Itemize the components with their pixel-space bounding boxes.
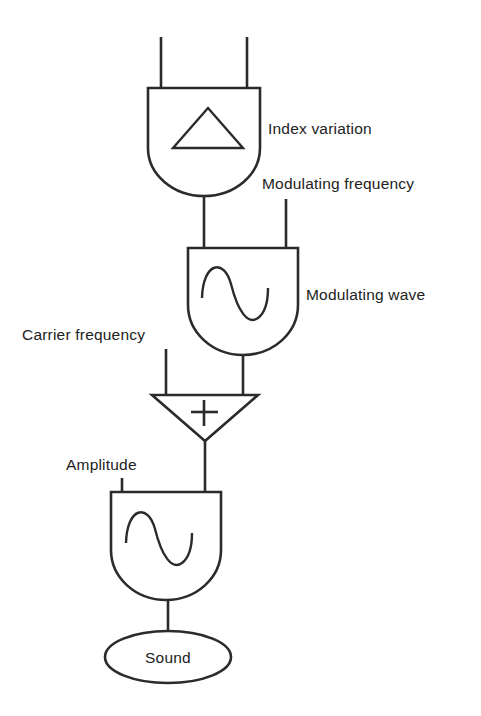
modulator-oscillator-node[interactable]: [188, 248, 298, 355]
carrier-oscillator-node[interactable]: [111, 492, 221, 600]
index-variation-label: Index variation: [268, 120, 372, 137]
carrier-oscillator-body[interactable]: [111, 492, 221, 600]
carrier-frequency-label: Carrier frequency: [22, 326, 145, 343]
sound-label: Sound: [145, 649, 191, 666]
modulating-frequency-label: Modulating frequency: [262, 175, 414, 192]
diagram-canvas: Index variation Modulating frequency Mod…: [0, 0, 481, 716]
sound-output-node[interactable]: Sound: [105, 631, 231, 683]
summing-junction-node[interactable]: [152, 395, 258, 441]
modulator-oscillator-body[interactable]: [188, 248, 298, 355]
envelope-generator-node[interactable]: [148, 37, 260, 196]
fm-synthesis-diagram: Index variation Modulating frequency Mod…: [0, 0, 481, 716]
amplitude-label: Amplitude: [66, 456, 137, 473]
modulating-wave-label: Modulating wave: [306, 286, 425, 303]
envelope-generator-body[interactable]: [148, 88, 260, 196]
